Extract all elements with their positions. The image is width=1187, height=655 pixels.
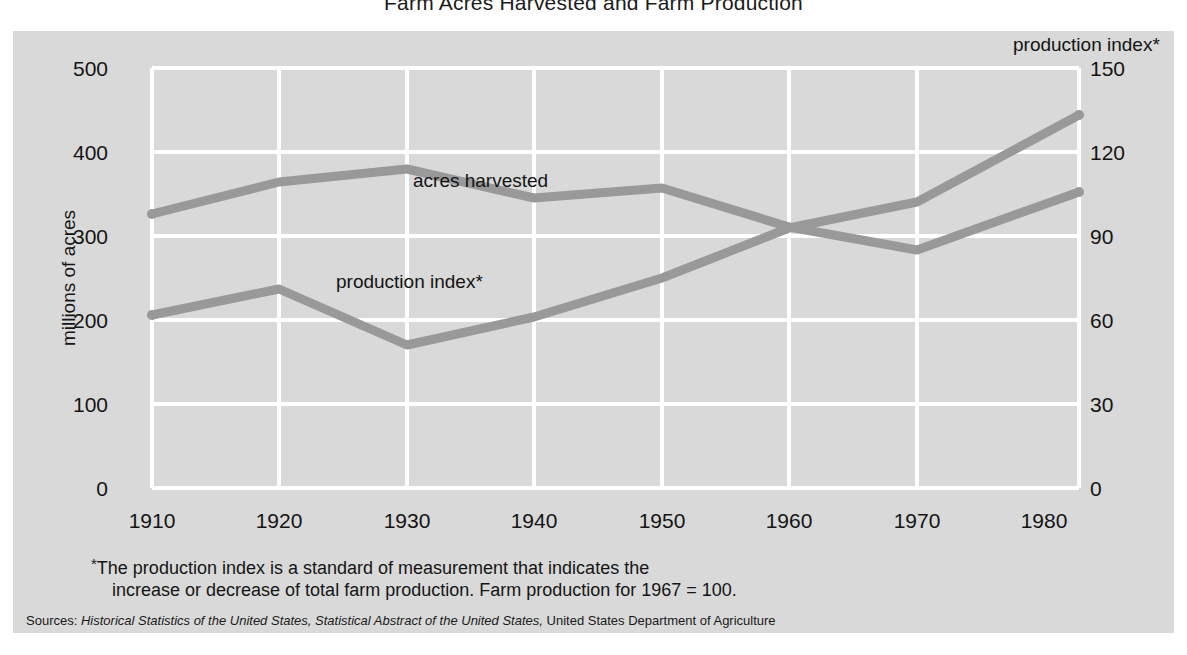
series-production-index	[147, 110, 1084, 345]
chart-figure: Farm Acres Harvested and Farm Production…	[0, 0, 1187, 655]
sources-reference-3: United States Department of Agriculture	[547, 613, 776, 628]
footnote-text-1: The production index is a standard of me…	[97, 558, 649, 578]
data-point-index-1910	[147, 310, 157, 320]
chart-panel: millions of acres production index* 500 …	[13, 31, 1174, 633]
gridlines-horizontal	[152, 68, 1079, 488]
chart-title: Farm Acres Harvested and Farm Production	[0, 0, 1187, 15]
series-label-production-index: production index*	[336, 271, 483, 293]
sources-prefix: Sources:	[26, 613, 77, 628]
data-point-acres-1910	[147, 209, 157, 219]
gridlines-vertical	[152, 68, 1079, 488]
plot-area	[13, 31, 1174, 633]
footnote-line-2: increase or decrease of total farm produ…	[91, 577, 737, 603]
sources-line: Sources: Historical Statistics of the Un…	[26, 613, 776, 628]
sources-reference-2: Statistical Abstract of the United State…	[315, 613, 543, 628]
series-label-acres-harvested: acres harvested	[413, 170, 548, 192]
data-point-acres-1980	[1074, 187, 1084, 197]
data-point-index-1980	[1074, 110, 1084, 120]
sources-reference-1: Historical Statistics of the United Stat…	[81, 613, 311, 628]
